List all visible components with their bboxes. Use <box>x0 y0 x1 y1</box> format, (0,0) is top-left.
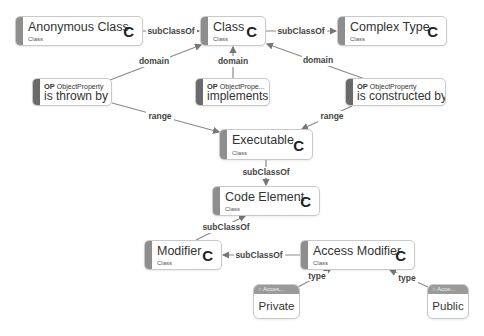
node-public[interactable]: ○ Acce... Public <box>427 284 469 319</box>
edge-label-thrown-domain: domain <box>139 56 169 66</box>
class-badge-icon: C <box>246 23 257 40</box>
node-label: is constructed by <box>357 89 446 103</box>
node-label: Executable <box>232 133 294 147</box>
edge-label-thrown-range: range <box>148 111 171 121</box>
node-type: Class <box>350 36 365 42</box>
property-color-bar <box>346 79 353 105</box>
node-anonymous-class[interactable]: Anonymous Class Class C <box>15 16 143 46</box>
edge-label-class-subclassof: subClassOf <box>277 26 324 36</box>
node-type: Class <box>157 260 172 266</box>
edge-label-anon-subclassof: subClassOf <box>147 26 194 36</box>
edge-label-executable-subclassof: subClassOf <box>242 167 289 177</box>
node-label: Code Element <box>225 190 304 204</box>
node-label: Complex Type <box>350 20 430 34</box>
class-color-bar <box>301 241 308 269</box>
individual-header: ○ Acces... <box>254 285 299 294</box>
node-label: Modifier <box>157 244 201 258</box>
edge-label-modifier-subclassof: subClassOf <box>202 222 249 232</box>
class-badge-icon: C <box>395 247 406 264</box>
class-color-bar <box>338 17 345 45</box>
individual-header: ○ Acce... <box>428 285 468 294</box>
node-is-thrown-by[interactable]: OPObjectProperty is thrown by <box>32 78 112 106</box>
node-implements[interactable]: OPObjectPrope... implements <box>195 78 270 106</box>
class-color-bar <box>16 17 23 45</box>
node-type: Class <box>225 206 240 212</box>
node-executable[interactable]: Executable Class C <box>219 129 313 160</box>
node-access-modifier[interactable]: Access Modifier Class C <box>300 240 415 270</box>
class-color-bar <box>201 17 208 45</box>
edge-label-public-type: type <box>398 273 416 283</box>
class-badge-icon: C <box>293 136 304 153</box>
node-label: Class <box>213 20 244 34</box>
edge-label-implements-domain: domain <box>218 56 248 66</box>
node-label: Access Modifier <box>313 244 401 258</box>
node-modifier[interactable]: Modifier Class C <box>144 240 222 270</box>
graph-edges: subClassOf subClassOf domain domain doma… <box>0 0 484 336</box>
class-badge-icon: C <box>427 23 438 40</box>
class-badge-icon: C <box>202 247 213 264</box>
individual-type-label: Acce... <box>437 286 455 292</box>
node-is-constructed-by[interactable]: OPObjectProperty is constructed by <box>345 78 446 106</box>
class-color-bar <box>145 241 152 269</box>
node-private[interactable]: ○ Acces... Private <box>253 284 300 319</box>
individual-type-label: Acces... <box>263 286 284 292</box>
node-label: Public <box>428 300 468 312</box>
property-color-bar <box>33 79 40 105</box>
edge-label-access-subclassof: subClassOf <box>235 250 282 260</box>
edge-label-constructed-range: range <box>320 111 343 121</box>
class-badge-icon: C <box>123 23 134 40</box>
class-badge-icon: C <box>300 193 311 210</box>
node-code-element[interactable]: Code Element Class C <box>212 186 320 216</box>
property-color-bar <box>196 79 203 105</box>
node-type: Class <box>313 260 328 266</box>
ontology-graph-canvas[interactable]: subClassOf subClassOf domain domain doma… <box>0 0 484 336</box>
node-label: Private <box>254 300 299 312</box>
edge-label-private-type: type <box>308 271 326 281</box>
node-class[interactable]: Class Class C <box>200 16 266 46</box>
node-type: Class <box>28 36 43 42</box>
node-label: is thrown by <box>44 89 108 103</box>
edge-label-constructed-domain: domain <box>303 55 333 65</box>
node-label: implements <box>207 89 268 103</box>
class-color-bar <box>220 130 227 159</box>
class-color-bar <box>213 187 220 215</box>
node-complex-type[interactable]: Complex Type Class C <box>337 16 447 46</box>
node-label: Anonymous Class <box>28 20 129 34</box>
node-type: Class <box>213 36 228 42</box>
node-type: Class <box>232 150 247 156</box>
